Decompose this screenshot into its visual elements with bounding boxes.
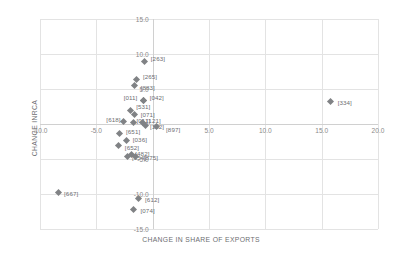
y-gridline [40, 19, 378, 20]
data-point-label: [036] [133, 136, 147, 143]
scatter-chart: [263][265][883][011][042][531][071][618]… [0, 0, 402, 255]
data-point-label: [263] [151, 55, 165, 62]
data-point-label: [531] [136, 103, 150, 110]
data-point[interactable] [115, 142, 122, 149]
plot-area: [263][265][883][011][042][531][071][618]… [40, 19, 378, 229]
data-point-label: [042] [150, 94, 164, 101]
data-point[interactable] [130, 206, 137, 213]
x-axis-line [40, 124, 378, 125]
data-point-label: [618] [106, 116, 120, 123]
x-axis-tick: 5.0 [204, 127, 213, 134]
y-axis-tick: 15.0 [123, 16, 149, 23]
y-gridline [40, 159, 378, 160]
x-axis-tick: 10.0 [259, 127, 272, 134]
data-point-label: [667] [64, 190, 78, 197]
y-axis-tick: 5.0 [123, 86, 149, 93]
y-gridline [40, 229, 378, 230]
y-gridline [40, 89, 378, 90]
data-point[interactable] [141, 57, 148, 64]
y-gridline [40, 194, 378, 195]
x-axis-tick: -10.0 [32, 127, 47, 134]
x-axis-title: CHANGE IN SHARE OF EXPORTS [0, 236, 402, 243]
data-point-label: [011] [124, 94, 138, 101]
x-gridline [378, 19, 379, 229]
y-axis-tick: -10.0 [123, 191, 149, 198]
data-point-label: [651] [126, 128, 140, 135]
x-axis-tick: 20.0 [372, 127, 385, 134]
y-axis-tick: -5.0 [123, 156, 149, 163]
data-point-label: [265] [143, 73, 157, 80]
x-axis-tick: -5.0 [91, 127, 102, 134]
data-point[interactable] [54, 189, 61, 196]
data-point-label: [334] [338, 99, 352, 106]
y-axis-tick: -15.0 [123, 226, 149, 233]
data-point[interactable] [116, 130, 123, 137]
y-gridline [40, 54, 378, 55]
data-point-label: [897] [166, 126, 180, 133]
x-axis-tick: 15.0 [315, 127, 328, 134]
y-axis-tick: 10.0 [123, 51, 149, 58]
data-point-label: [074] [141, 207, 155, 214]
data-point[interactable] [327, 98, 334, 105]
